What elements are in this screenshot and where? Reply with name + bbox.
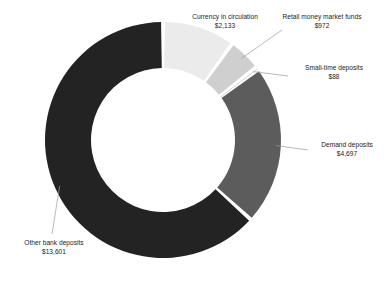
donut-slice[interactable] — [217, 71, 281, 217]
callout-currency-in-circulation: Currency in circulation $2,133 — [180, 12, 270, 30]
callout-label: Other bank deposits — [10, 238, 98, 247]
callout-label: Currency in circulation — [180, 12, 270, 21]
callout-value: $13,601 — [10, 247, 98, 256]
callout-value: $972 — [268, 21, 376, 30]
callout-small-time-deposits: Small-time deposits $88 — [288, 63, 380, 81]
leader-line — [52, 186, 60, 234]
callout-value: $4,697 — [310, 149, 384, 158]
callout-other-bank-deposits: Other bank deposits $13,601 — [10, 238, 98, 256]
callout-label: Small-time deposits — [288, 63, 380, 72]
callout-retail-money-market-funds: Retail money market funds $972 — [268, 12, 376, 30]
leader-line — [241, 30, 282, 59]
callout-demand-deposits: Demand deposits $4,697 — [310, 140, 384, 158]
callout-label: Demand deposits — [310, 140, 384, 149]
donut-slices — [45, 22, 281, 258]
callout-label: Retail money market funds — [268, 12, 376, 21]
callout-value: $2,133 — [180, 21, 270, 30]
donut-chart: Currency in circulation $2,133 Retail mo… — [0, 0, 387, 281]
callout-value: $88 — [288, 72, 380, 81]
